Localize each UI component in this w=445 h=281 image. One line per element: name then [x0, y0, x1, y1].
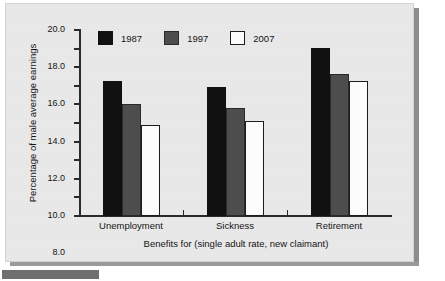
y-tick-label: 18.0: [47, 62, 65, 71]
legend-item-2007: 2007: [230, 31, 274, 45]
legend: 198719972007: [98, 31, 296, 45]
y-tick-label: 12.0: [47, 173, 65, 182]
y-tick: 14.0: [74, 85, 79, 87]
bar-unemployment-2007: [141, 125, 160, 216]
bar-retirement-2007: [349, 81, 368, 216]
legend-swatch-1987: [98, 31, 113, 45]
y-tick-label: 14.0: [47, 136, 65, 145]
legend-label: 1997: [187, 33, 208, 44]
bar-retirement-1997: [330, 74, 349, 216]
x-category-label: Unemployment: [99, 220, 163, 231]
bar-unemployment-1987: [103, 81, 122, 216]
y-axis-title: Percentage of male average earnings: [27, 44, 38, 202]
bar-sickness-1987: [207, 87, 226, 216]
panel-shadow-bottom: [10, 262, 419, 266]
y-tick-label: 8.0: [52, 248, 65, 257]
y-tick: 20.0: [74, 29, 79, 31]
y-tick-label: 10.0: [47, 211, 65, 220]
x-tick: [287, 210, 288, 216]
bar-sickness-2007: [245, 121, 264, 216]
legend-label: 2007: [253, 33, 274, 44]
panel-shadow-right: [414, 8, 419, 264]
bar-unemployment-1997: [122, 104, 141, 216]
legend-item-1987: 1987: [98, 31, 142, 45]
x-axis-title: Benefits for (single adult rate, new cla…: [144, 238, 329, 249]
y-tick: 2.0: [74, 196, 79, 198]
bar-sickness-1997: [226, 108, 245, 216]
y-tick: 18.0: [74, 48, 79, 50]
y-tick-label: 16.0: [47, 99, 65, 108]
x-category-label: Retirement: [316, 220, 362, 231]
y-tick: 8.0: [74, 141, 79, 143]
y-tick: 10.0: [74, 122, 79, 124]
x-tick: [183, 210, 184, 216]
y-tick: 6.0: [74, 159, 79, 161]
y-tick-label: 20.0: [47, 25, 65, 34]
legend-swatch-2007: [230, 31, 245, 45]
bar-retirement-1987: [311, 48, 330, 216]
plot-area: 0.02.04.06.08.010.012.014.016.018.020.0: [79, 30, 391, 216]
legend-label: 1987: [121, 33, 142, 44]
y-tick: 4.0: [74, 178, 79, 180]
y-tick: 12.0: [74, 103, 79, 105]
y-tick: 0.0: [74, 215, 79, 217]
caption-marker-block: [2, 270, 99, 279]
figure-container: Percentage of male average earnings 0.02…: [0, 0, 445, 281]
legend-item-1997: 1997: [164, 31, 208, 45]
legend-swatch-1997: [164, 31, 179, 45]
y-tick: 16.0: [74, 66, 79, 68]
x-category-label: Sickness: [216, 220, 254, 231]
